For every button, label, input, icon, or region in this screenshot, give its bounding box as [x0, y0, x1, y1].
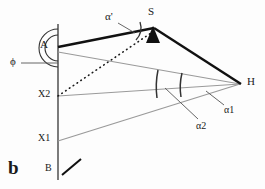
angle-label-alpha-prime: α'	[105, 11, 113, 22]
point-label-x2: X2	[38, 89, 50, 99]
arc-angle-alpha2-at-h	[156, 70, 158, 98]
angle-label-alpha1: α1	[224, 105, 234, 115]
point-label-h: H	[247, 76, 255, 87]
alpha2-leader-line	[165, 88, 198, 119]
point-label-s: S	[148, 6, 154, 17]
thick-segment-a-to-s	[58, 28, 154, 47]
arc-angle-alpha1-at-h	[180, 73, 182, 97]
angle-label-alpha2: α2	[196, 121, 206, 131]
ray-h-to-a	[58, 52, 240, 84]
panel-label: b	[8, 158, 19, 177]
ray-h-to-x2	[58, 84, 240, 96]
thick-segment-s-to-h	[154, 28, 241, 84]
angle-label-phi: ϕ	[10, 56, 16, 67]
dotted-line-x2-to-s	[58, 33, 151, 96]
point-label-x1: X1	[38, 133, 50, 143]
point-label-a: A	[40, 39, 48, 50]
alpha-prime-leader-line	[118, 23, 135, 33]
figure-panel: A B S H X2 X1 ϕ α' α1 α2 b	[0, 0, 265, 189]
point-label-b: B	[45, 163, 52, 173]
ray-h-to-x1	[58, 84, 240, 141]
ground-tick-near-b	[62, 159, 81, 175]
alpha1-leader-line	[206, 91, 224, 105]
